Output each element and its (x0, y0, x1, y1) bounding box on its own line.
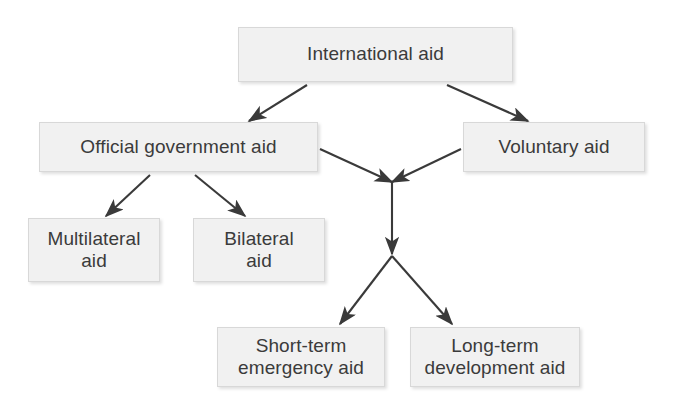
edge-lower-to-short-term (340, 256, 392, 324)
node-multilateral-aid[interactable]: Multilateral aid (28, 218, 160, 282)
edge-intl-to-official (249, 85, 307, 121)
edge-official-to-junction (320, 149, 392, 182)
node-voluntary-aid[interactable]: Voluntary aid (463, 122, 645, 172)
edge-official-to-bilateral (195, 175, 245, 216)
node-label-long-term-development-aid: Long-term development aid (425, 335, 566, 380)
edge-official-to-multilateral (106, 175, 150, 216)
edge-intl-to-voluntary (447, 85, 528, 121)
node-label-official-government-aid: Official government aid (80, 136, 276, 158)
node-label-multilateral-aid: Multilateral aid (47, 228, 140, 273)
node-bilateral-aid[interactable]: Bilateral aid (193, 218, 325, 282)
node-label-bilateral-aid: Bilateral aid (224, 228, 294, 273)
edge-lower-to-long-term (392, 256, 452, 324)
node-short-term-emergency-aid[interactable]: Short-term emergency aid (217, 327, 385, 387)
node-label-international-aid: International aid (307, 43, 444, 65)
edge-voluntary-to-junction (392, 149, 461, 182)
node-label-short-term-emergency-aid: Short-term emergency aid (238, 335, 364, 380)
node-international-aid[interactable]: International aid (238, 27, 513, 82)
diagram-canvas: International aid Official government ai… (0, 0, 679, 416)
node-official-government-aid[interactable]: Official government aid (39, 122, 318, 172)
node-long-term-development-aid[interactable]: Long-term development aid (410, 327, 580, 387)
node-label-voluntary-aid: Voluntary aid (498, 136, 609, 158)
